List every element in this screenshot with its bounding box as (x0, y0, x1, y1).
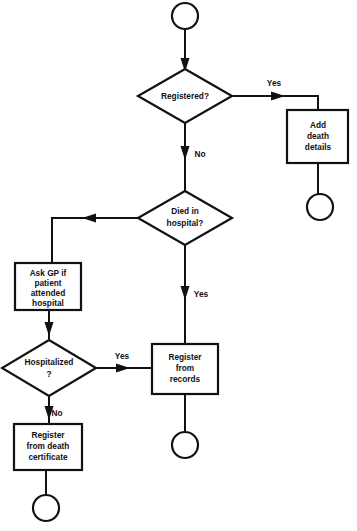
edge-died-in-hospital-yes (181, 245, 190, 344)
edge-label-registered-no: No (194, 149, 205, 159)
node-register-from-death-certificate[interactable]: Register from death certificate (14, 424, 82, 470)
edge-registered-yes (233, 92, 318, 111)
edge-label-hospitalized-no: No (51, 408, 62, 418)
node-ask-gp[interactable]: Ask GP if patient attended hospital (15, 263, 81, 310)
edge-ask-gp-to-hospitalized (45, 310, 54, 339)
node-died-in-hospital[interactable]: Died in hospital? (138, 191, 232, 245)
node-label-register-from-death-certificate-line2: from death (27, 441, 70, 451)
node-register-from-records[interactable]: Register from records (152, 344, 218, 394)
arrow-head-icon (45, 322, 54, 336)
node-label-ask-gp-line1: Ask GP if (30, 268, 67, 278)
node-start[interactable] (172, 3, 198, 29)
arrow-head-icon (271, 92, 285, 101)
node-label-hospitalized-line2: ? (46, 369, 51, 379)
arrow-head-icon (82, 214, 96, 223)
edge-label-registered-yes: Yes (267, 78, 282, 88)
node-label-register-from-records-line3: records (170, 374, 201, 384)
edge-label-hospitalized-yes: Yes (115, 351, 130, 361)
node-label-register-from-death-certificate-line3: certificate (28, 452, 68, 462)
arrow-head-icon (116, 364, 130, 373)
node-label-died-in-hospital-line1: Died in (171, 206, 199, 216)
node-label-ask-gp-line3: attended (31, 288, 66, 298)
node-label-died-in-hospital-line2: hospital? (167, 218, 204, 228)
node-label-add-death-details-line3: details (305, 142, 332, 152)
node-end-added[interactable] (307, 194, 333, 220)
edge-died-in-hospital-left (52, 214, 138, 264)
node-label-registered: Registered? (161, 91, 209, 101)
node-label-ask-gp-line2: patient (34, 278, 61, 288)
arrow-head-icon (181, 286, 190, 300)
node-label-add-death-details-line2: death (307, 131, 329, 141)
node-label-register-from-records-line2: from (176, 363, 194, 373)
end-terminator-icon[interactable] (172, 432, 198, 458)
node-add-death-details[interactable]: Add death details (287, 110, 348, 163)
decision-diamond-shape[interactable] (2, 340, 96, 396)
edge-start-to-registered (181, 29, 190, 72)
flowchart-canvas: Registered? Add death details Died in ho… (0, 0, 357, 531)
start-terminator-icon[interactable] (172, 3, 198, 29)
arrow-head-icon (181, 146, 190, 160)
end-terminator-icon[interactable] (307, 194, 333, 220)
flowchart-page: Registered? Add death details Died in ho… (0, 0, 357, 531)
edge-hospitalized-yes (96, 364, 152, 373)
node-end-certificate[interactable] (33, 495, 59, 521)
node-label-add-death-details-line1: Add (310, 120, 326, 130)
edge-registered-no (181, 123, 190, 191)
end-terminator-icon[interactable] (33, 495, 59, 521)
node-label-hospitalized-line1: Hospitalized (25, 357, 74, 367)
node-label-register-from-death-certificate-line1: Register (31, 430, 65, 440)
node-end-records[interactable] (172, 432, 198, 458)
node-registered[interactable]: Registered? (138, 69, 232, 123)
node-layer: Registered? Add death details Died in ho… (2, 3, 348, 521)
edge-label-died-in-hospital-yes: Yes (194, 289, 209, 299)
edge-line (52, 218, 138, 263)
node-label-ask-gp-line4: hospital (32, 298, 64, 308)
node-label-register-from-records-line1: Register (168, 352, 202, 362)
node-hospitalized[interactable]: Hospitalized ? (2, 340, 96, 396)
